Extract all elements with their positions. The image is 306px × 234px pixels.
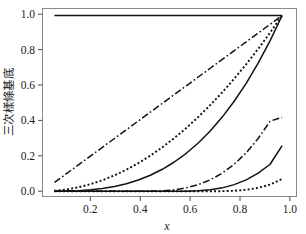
curve-truncated-power-knot-1 [54,117,282,191]
y-tick-label-3: 0.6 [21,79,36,91]
y-axis-ticks [38,14,43,191]
curve-linear-basis [54,16,282,183]
curve-quadratic-basis [54,16,282,191]
y-tick-label-0: 0.0 [21,185,36,197]
y-tick-label-4: 0.8 [21,44,36,56]
chart-figure: 0.0 0.2 0.4 0.6 0.8 1.0 0.2 0.4 0.6 0.8 … [0,0,306,234]
y-tick-label-5: 1.0 [21,8,36,20]
x-tick-label-4: 1.0 [283,203,298,215]
x-tick-label-3: 0.8 [233,203,248,215]
curve-group [54,16,282,192]
x-axis-title: x [163,219,170,233]
x-tick-label-0: 0.2 [83,203,98,215]
y-axis-title: 三次樣條基底 [2,67,15,136]
curve-cubic-basis [54,16,282,192]
y-tick-label-1: 0.2 [21,150,36,162]
x-tick-label-2: 0.6 [183,203,198,215]
cubic-spline-basis-plot: 0.0 0.2 0.4 0.6 0.8 1.0 0.2 0.4 0.6 0.8 … [0,0,306,234]
x-axis-ticks [90,197,290,202]
x-tick-label-1: 0.4 [133,203,148,215]
plot-frame [43,9,297,197]
y-tick-label-2: 0.4 [21,114,36,126]
